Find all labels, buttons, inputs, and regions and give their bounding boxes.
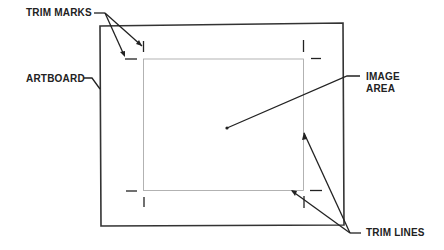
label-trim-lines: TRIM LINES (366, 227, 425, 238)
leader-artboard (84, 78, 100, 89)
label-trim-marks: TRIM MARKS (26, 7, 92, 18)
leader-trim-marks (94, 13, 142, 55)
label-image-area-line2: AREA (366, 83, 400, 94)
arrowhead-icon (120, 51, 125, 57)
trim-mark-bottom-right (304, 191, 322, 209)
image-area-trim-lines (144, 59, 304, 191)
image-area-dot (225, 126, 228, 129)
artboard-diagram (0, 0, 444, 250)
label-artboard: ARTBOARD (26, 73, 85, 84)
leader-image-area (227, 76, 360, 128)
trim-mark-top-right (304, 40, 322, 59)
arrowhead-icon (291, 190, 297, 196)
leader-trim-lines (292, 133, 361, 233)
arrowhead-icon (302, 132, 307, 140)
label-image-area-line1: IMAGE (366, 71, 400, 82)
artboard-border (100, 23, 344, 226)
trim-mark-bottom-left (126, 191, 144, 207)
label-image-area: IMAGE AREA (366, 71, 400, 94)
